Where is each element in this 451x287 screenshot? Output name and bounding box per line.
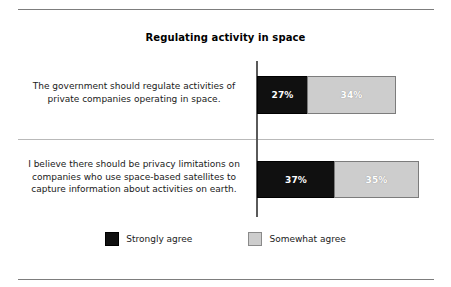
legend-swatch-icon — [105, 232, 119, 246]
legend-swatch-icon — [248, 232, 262, 246]
row-separator-rule — [18, 139, 434, 140]
stacked-bar: 27% 34% — [257, 76, 396, 114]
bar-category-label: I believe there should be privacy limita… — [20, 158, 248, 196]
legend-label: Somewhat agree — [269, 234, 345, 244]
chart-title: Regulating activity in space — [0, 32, 451, 43]
bottom-divider-rule — [18, 279, 434, 280]
legend-item-somewhat-agree: Somewhat agree — [248, 232, 345, 246]
bar-segment-value: 37% — [285, 175, 307, 185]
bar-segment-value: 35% — [365, 175, 387, 185]
bar-segment-strongly-agree: 27% — [257, 76, 307, 114]
bar-category-label: The government should regulate activitie… — [20, 80, 248, 105]
top-divider-rule — [18, 9, 434, 10]
chart-legend: Strongly agree Somewhat agree — [0, 232, 451, 246]
legend-label: Strongly agree — [126, 234, 192, 244]
bar-segment-somewhat-agree: 34% — [307, 76, 396, 114]
legend-item-strongly-agree: Strongly agree — [105, 232, 192, 246]
bar-segment-somewhat-agree: 35% — [334, 161, 419, 198]
bar-segment-value: 34% — [340, 90, 362, 100]
bar-row: I believe there should be privacy limita… — [0, 152, 451, 210]
bar-segment-strongly-agree: 37% — [257, 161, 334, 198]
stacked-bar: 37% 35% — [257, 161, 419, 198]
chart-figure: Regulating activity in space The governm… — [0, 0, 451, 287]
bar-segment-value: 27% — [271, 90, 293, 100]
bar-row: The government should regulate activitie… — [0, 70, 451, 122]
